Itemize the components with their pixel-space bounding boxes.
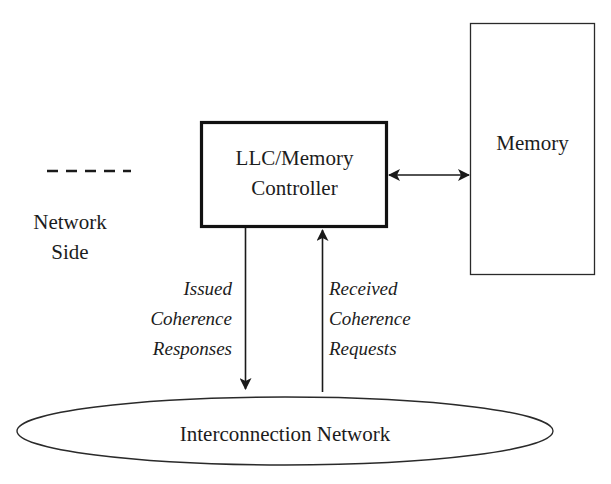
llc-memory-controller-diagram: LLC/Memory Controller Memory Network Sid…: [0, 0, 611, 484]
interconnection-network-label: Interconnection Network: [17, 421, 553, 447]
issued-responses-label-line2: Coherence: [100, 304, 232, 334]
interconnection-network-label-text: Interconnection Network: [180, 422, 391, 446]
llc-controller-label: LLC/Memory Controller: [201, 143, 388, 203]
received-requests-label-line2: Coherence: [329, 304, 469, 334]
llc-controller-label-line2: Controller: [201, 173, 388, 203]
llc-controller-label-line1: LLC/Memory: [201, 143, 388, 173]
network-side-label-line1: Network: [20, 207, 120, 237]
received-requests-label: Received Coherence Requests: [329, 274, 469, 364]
network-side-label-line2: Side: [20, 237, 120, 267]
received-requests-label-line1: Received: [329, 274, 469, 304]
issued-responses-label-line3: Responses: [100, 334, 232, 364]
memory-label-text: Memory: [496, 131, 568, 155]
memory-label: Memory: [470, 130, 595, 156]
issued-responses-label-line1: Issued: [100, 274, 232, 304]
received-requests-label-line3: Requests: [329, 334, 469, 364]
network-side-label: Network Side: [20, 207, 120, 267]
issued-responses-label: Issued Coherence Responses: [100, 274, 232, 364]
